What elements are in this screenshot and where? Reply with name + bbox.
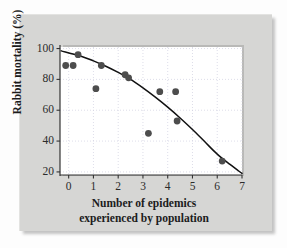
fit-curve-group [61,51,242,174]
y-tick-label: 100 [22,43,54,55]
trend-curve [61,51,242,174]
y-axis-title: Rabbit mortality (%) [11,0,23,127]
y-axis-title-text: Rabbit mortality (%) [11,10,23,115]
data-point [174,118,181,125]
data-point [62,62,69,69]
data-point [156,88,163,95]
y-tick-label: 20 [22,166,54,178]
x-tick-label: 5 [190,181,196,193]
x-axis-title: Number of epidemics experienced by popul… [34,196,254,225]
x-axis-title-line1: Number of epidemics [34,196,254,211]
x-tick-label: 1 [91,181,97,193]
data-point [93,85,100,92]
data-point [145,130,152,137]
data-point [219,158,226,165]
data-points-group [62,51,225,164]
x-tick-label: 7 [239,181,245,193]
x-axis-title-line2: experienced by population [34,211,254,226]
x-tick-label: 6 [214,181,220,193]
y-tick-label: 60 [22,104,54,116]
x-tick-label: 0 [66,181,72,193]
x-tick-label: 4 [165,181,171,193]
data-point [70,62,77,69]
figure-root: 20406080100 01234567 Rabbit mortality (%… [0,0,287,248]
data-point [172,88,179,95]
x-tick-label: 2 [115,181,121,193]
gridlines-group [60,47,242,175]
x-tick-label: 3 [140,181,146,193]
y-tick-label: 40 [22,135,54,147]
data-point [98,62,105,69]
data-point [75,51,82,58]
data-point [125,74,132,81]
tick-marks-group [57,49,243,179]
y-tick-label: 80 [22,74,54,86]
